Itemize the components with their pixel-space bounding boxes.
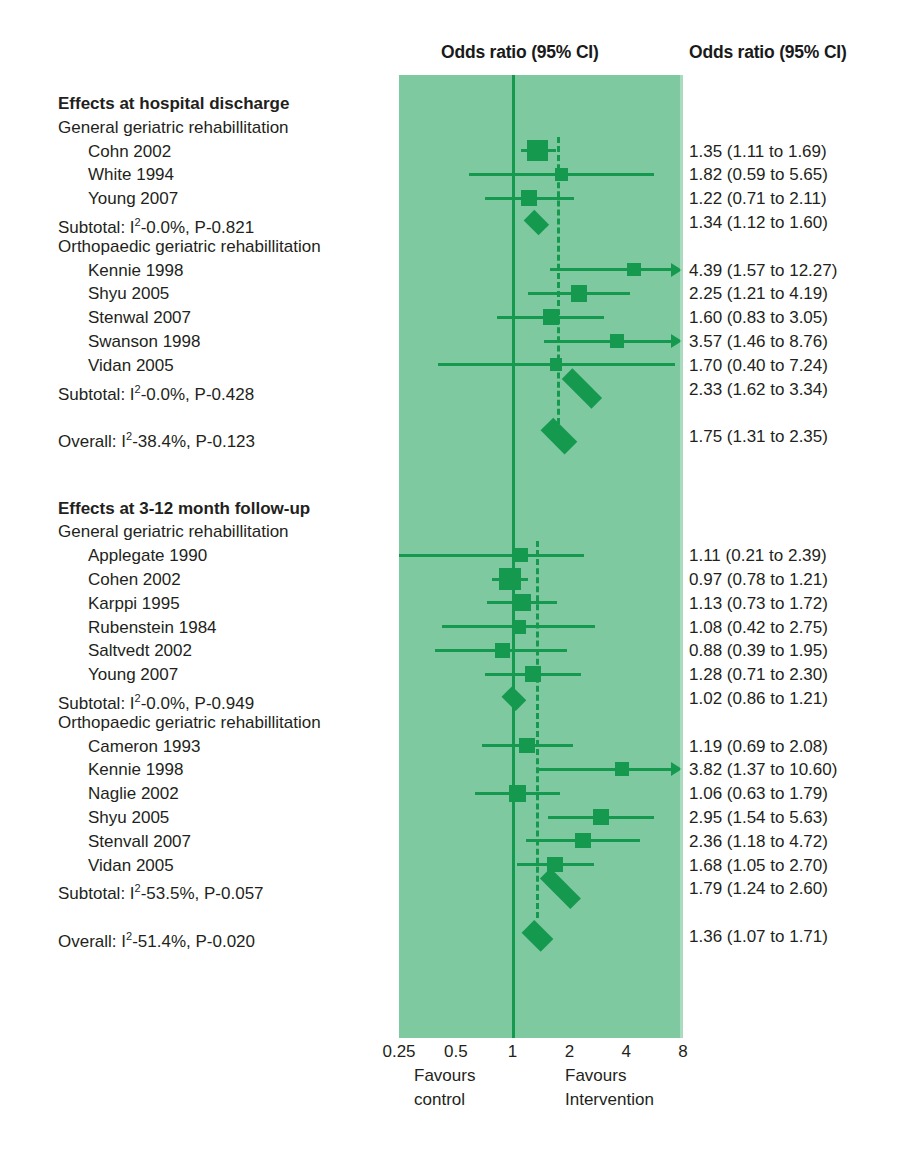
study-effect-marker	[527, 140, 548, 161]
study-effect-marker	[521, 190, 537, 206]
overall-label: Overall: I2-38.4%, P-0.123	[58, 428, 255, 450]
study-label: Young 2007	[88, 666, 178, 683]
subtotal-effect-diamond	[524, 209, 549, 234]
study-effect-marker	[512, 620, 526, 634]
section-title: Effects at hospital discharge	[58, 95, 289, 112]
study-effect-marker	[575, 833, 590, 848]
result-value: 1.19 (0.69 to 2.08)	[689, 738, 828, 755]
result-value: 1.06 (0.63 to 1.79)	[689, 785, 828, 802]
favours-intervention-label-line1: Favours	[565, 1066, 626, 1086]
axis-tick-label: 4	[621, 1042, 630, 1062]
subtotal-effect-diamond	[540, 868, 581, 909]
study-label: Kennie 1998	[88, 761, 183, 778]
group-title: Orthopaedic geriatric rehabillitation	[58, 714, 321, 731]
study-label: Kennie 1998	[88, 262, 183, 279]
study-label: Saltvedt 2002	[88, 642, 192, 659]
study-effect-marker	[543, 309, 559, 325]
subtotal-label: Subtotal: I2-0.0%, P-0.949	[58, 690, 254, 712]
study-effect-marker	[519, 738, 534, 753]
result-value: 0.88 (0.39 to 1.95)	[689, 642, 828, 659]
study-effect-marker	[571, 285, 587, 301]
study-label: Cameron 1993	[88, 738, 200, 755]
study-label: Swanson 1998	[88, 333, 200, 350]
confidence-interval-line	[538, 768, 671, 771]
study-effect-marker	[509, 785, 526, 802]
study-effect-marker	[555, 168, 568, 181]
result-column-header: Odds ratio (95% CI)	[689, 42, 847, 63]
result-value: 1.75 (1.31 to 2.35)	[689, 428, 828, 445]
subtotal-label: Subtotal: I2-53.5%, P-0.057	[58, 880, 264, 902]
group-title: General geriatric rehabillitation	[58, 523, 289, 540]
study-effect-marker	[495, 643, 510, 658]
study-label: White 1994	[88, 166, 174, 183]
result-value: 1.08 (0.42 to 2.75)	[689, 619, 828, 636]
result-value: 2.95 (1.54 to 5.63)	[689, 809, 828, 826]
result-value: 3.82 (1.37 to 10.60)	[689, 761, 837, 778]
axis-tick-label: 2	[565, 1042, 574, 1062]
study-label: Stenwal 2007	[88, 309, 191, 326]
study-effect-marker	[627, 263, 641, 277]
result-value: 3.57 (1.46 to 8.76)	[689, 333, 828, 350]
axis-tick-label: 8	[678, 1042, 687, 1062]
result-value: 1.13 (0.73 to 1.72)	[689, 595, 828, 612]
confidence-interval-line	[544, 340, 671, 343]
study-label: Young 2007	[88, 190, 178, 207]
ci-overflow-arrow	[671, 334, 682, 348]
overall-label: Overall: I2-51.4%, P-0.020	[58, 928, 255, 950]
study-label: Shyu 2005	[88, 285, 169, 302]
result-value: 0.97 (0.78 to 1.21)	[689, 571, 828, 588]
result-value: 1.02 (0.86 to 1.21)	[689, 690, 828, 707]
forest-plot-figure: Odds ratio (95% CI) Odds ratio (95% CI) …	[0, 0, 909, 1169]
study-label: Cohn 2002	[88, 143, 171, 160]
study-effect-marker	[593, 809, 609, 825]
study-effect-marker	[615, 762, 629, 776]
overall-effect-diamond	[540, 418, 577, 455]
favours-control-label-line2: control	[414, 1090, 465, 1110]
result-value: 1.28 (0.71 to 2.30)	[689, 666, 828, 683]
result-value: 1.35 (1.11 to 1.69)	[689, 143, 827, 160]
axis-tick-label: 1	[508, 1042, 517, 1062]
ci-overflow-arrow	[671, 263, 682, 277]
result-value: 1.34 (1.12 to 1.60)	[689, 214, 828, 231]
study-effect-marker	[514, 548, 528, 562]
study-label: Karppi 1995	[88, 595, 180, 612]
result-value: 1.70 (0.40 to 7.24)	[689, 357, 828, 374]
axis-tick-label: 0.25	[382, 1042, 415, 1062]
result-value: 2.36 (1.18 to 4.72)	[689, 833, 828, 850]
study-label: Shyu 2005	[88, 809, 169, 826]
favours-intervention-label-line2: Intervention	[565, 1090, 654, 1110]
result-value: 4.39 (1.57 to 12.27)	[689, 262, 837, 279]
confidence-interval-line	[550, 268, 671, 271]
study-label: Rubenstein 1984	[88, 619, 217, 636]
study-effect-marker	[550, 358, 563, 371]
result-value: 2.33 (1.62 to 3.34)	[689, 381, 828, 398]
subtotal-effect-diamond	[502, 686, 526, 710]
subtotal-effect-diamond	[562, 369, 602, 409]
study-label: Cohen 2002	[88, 571, 181, 588]
study-label: Vidan 2005	[88, 357, 174, 374]
study-effect-marker	[499, 568, 521, 590]
axis-tick-label: 0.5	[444, 1042, 468, 1062]
ci-overflow-arrow	[671, 762, 682, 776]
result-value: 1.82 (0.59 to 5.65)	[689, 166, 828, 183]
result-value: 1.36 (1.07 to 1.71)	[689, 928, 828, 945]
result-value: 1.68 (1.05 to 2.70)	[689, 857, 828, 874]
study-effect-marker	[525, 666, 541, 682]
result-value: 1.11 (0.21 to 2.39)	[689, 547, 827, 564]
confidence-interval-line	[399, 554, 584, 557]
study-effect-marker	[610, 334, 625, 349]
overall-effect-diamond	[522, 920, 554, 952]
favours-control-label-line1: Favours	[414, 1066, 475, 1086]
study-effect-marker	[514, 594, 531, 611]
group-title: Orthopaedic geriatric rehabillitation	[58, 238, 321, 255]
section-title: Effects at 3-12 month follow-up	[58, 500, 310, 517]
plot-area	[399, 75, 683, 1038]
result-value: 1.60 (0.83 to 3.05)	[689, 309, 828, 326]
subtotal-label: Subtotal: I2-0.0%, P-0.821	[58, 214, 254, 236]
pooled-effect-line-followup	[536, 541, 539, 918]
study-label: Naglie 2002	[88, 785, 179, 802]
result-value: 1.22 (0.71 to 2.11)	[689, 190, 827, 207]
result-value: 2.25 (1.21 to 4.19)	[689, 285, 828, 302]
group-title: General geriatric rehabillitation	[58, 119, 289, 136]
study-label: Vidan 2005	[88, 857, 174, 874]
